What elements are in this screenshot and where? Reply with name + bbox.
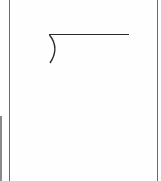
long-division-bracket-icon xyxy=(0,0,161,181)
